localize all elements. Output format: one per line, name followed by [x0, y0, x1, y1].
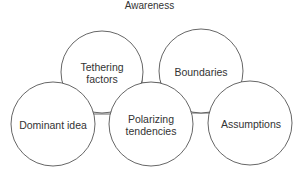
label-polarizing-tendencies: Polarizing tendencies [126, 113, 177, 137]
label-text-line2: tendencies [126, 125, 177, 137]
label-text-line1: Tethering [80, 61, 123, 73]
label-text-line2: factors [86, 73, 118, 85]
label-assumptions: Assumptions [221, 118, 281, 130]
label-dominant-idea: Dominant idea [19, 119, 87, 131]
label-text: Dominant idea [19, 119, 87, 131]
label-text: Assumptions [221, 118, 281, 130]
circle-diagram [0, 0, 299, 180]
label-text: Boundaries [174, 66, 227, 78]
label-boundaries: Boundaries [174, 66, 227, 78]
label-tethering-factors: Tethering factors [80, 61, 123, 85]
label-text-line1: Polarizing [128, 113, 174, 125]
